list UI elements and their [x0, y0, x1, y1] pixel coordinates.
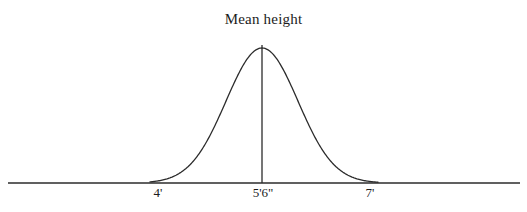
x-tick-label-7ft: 7' [366, 185, 375, 201]
bell-curve-plot [0, 0, 527, 212]
figure-canvas: Mean height 4' 5'6" 7' [0, 0, 527, 212]
x-tick-label-4ft: 4' [154, 185, 163, 201]
x-tick-label-5ft6in: 5'6" [253, 185, 274, 201]
normal-distribution-curve [150, 48, 378, 182]
